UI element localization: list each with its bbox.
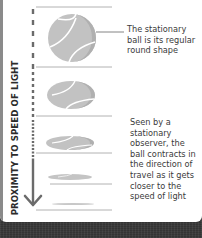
stationary-caption: The stationary ball is its regular round… [127,24,202,56]
contracted-ball-1-icon [47,81,95,109]
contracted-ball-2-icon [46,136,94,150]
diagram-panel: PROXIMITY TO SPEED OF LIGHT The stationa… [0,0,202,222]
axis-label: PROXIMITY TO SPEED OF LIGHT [10,61,20,216]
stationary-ball-icon [48,14,96,62]
contracted-ball-3-icon [48,174,92,180]
proximity-arrow-icon [25,9,41,205]
contraction-caption: Seen by a stationary observer, the ball … [130,117,202,202]
contracted-ball-4-icon [52,203,94,205]
